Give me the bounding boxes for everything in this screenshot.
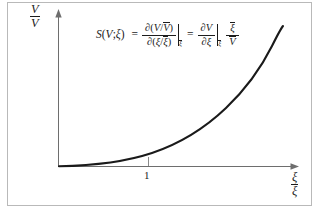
xi-bar-symbol: ξ <box>230 23 235 34</box>
v-bar-symbol: V <box>229 37 235 48</box>
evaluation-bar-second: ξ <box>217 24 222 46</box>
y-axis-label-numerator: V <box>30 3 40 17</box>
formula-partial-derivative: ∂V ∂ξ <box>198 23 216 47</box>
partial-derivative-numerator: ∂V <box>198 23 216 36</box>
formula-fraction-numerator: ∂(V/V) <box>142 23 176 36</box>
x-axis-label-numerator: ξ <box>291 171 298 185</box>
figure-root: V V ξ ξ 1 S(V;ξ) = ∂(V/V) ∂(ξ/ξ) ξ = ∂V … <box>0 0 334 222</box>
x-axis-label-denominator: ξ <box>291 185 298 198</box>
formula-equals-second: = <box>187 29 194 41</box>
data-curve <box>59 26 283 166</box>
y-axis-label: V V <box>30 3 40 29</box>
formula-lhs: S(V;ξ) <box>96 29 125 41</box>
formula-scaling-factor: ξ V <box>226 23 238 47</box>
xi-bar-symbol: ξ <box>163 37 168 48</box>
y-axis-arrowhead <box>55 9 61 18</box>
evaluation-subscript-xibar: ξ <box>179 40 182 47</box>
x-axis-label: ξ ξ <box>291 171 298 197</box>
partial-derivative-denominator: ∂ξ <box>198 36 216 48</box>
v-bar-symbol: V <box>163 23 169 34</box>
formula-fraction-normalized: ∂(V/V) ∂(ξ/ξ) <box>142 23 176 47</box>
y-axis-label-denominator: V <box>30 17 40 30</box>
scaling-factor-numerator: ξ <box>226 23 238 36</box>
formula-equals-first: = <box>132 29 139 41</box>
evaluation-subscript-xibar: ξ <box>218 40 221 47</box>
formula-expression: S(V;ξ) = ∂(V/V) ∂(ξ/ξ) ξ = ∂V ∂ξ ξ ξ V <box>96 23 239 47</box>
x-tick-label-1: 1 <box>144 170 150 181</box>
evaluation-bar-first: ξ <box>178 24 183 46</box>
scaling-factor-denominator: V <box>226 36 238 48</box>
formula-fraction-denominator: ∂(ξ/ξ) <box>142 36 176 48</box>
x-axis-arrowhead <box>291 163 300 169</box>
